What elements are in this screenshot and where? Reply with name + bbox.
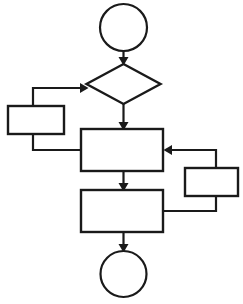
- left-process-box[interactable]: [8, 106, 64, 134]
- connector-lower-to-right: [163, 196, 216, 211]
- decision-diamond[interactable]: [87, 64, 161, 104]
- arrow-head-right-to-center: [164, 145, 173, 155]
- connector-left-to-decision: [33, 88, 85, 106]
- connector-left-to-center: [33, 134, 81, 150]
- end-terminator[interactable]: [101, 251, 147, 297]
- lower-process-box[interactable]: [81, 190, 163, 232]
- flowchart-canvas: [0, 0, 243, 304]
- start-terminator[interactable]: [100, 4, 147, 51]
- right-process-box[interactable]: [185, 168, 238, 196]
- center-process-box[interactable]: [81, 129, 163, 171]
- flowchart-diagram: [0, 0, 243, 304]
- connector-right-to-center: [167, 150, 216, 168]
